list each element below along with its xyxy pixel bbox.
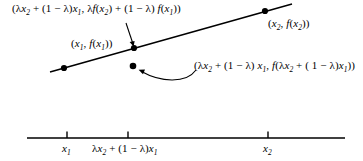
tick-label-x2: x2 (263, 143, 272, 154)
point-dot-function (130, 63, 137, 70)
point-dot-left (61, 65, 67, 71)
tick-label-mid: λx2 + (1 − λ)x1 (92, 143, 158, 154)
label-right-point: (x2, f(x2)) (268, 18, 310, 29)
convexity-diagram: (λx2 + (1 − λ)x1, λf(x2) + (1 − λ) f(x1)… (0, 0, 363, 161)
label-left-point: (x1, f(x1)) (71, 38, 113, 49)
point-dot-chord (131, 45, 137, 51)
arrow-to-chord-point-shaft (126, 23, 133, 45)
label-chord-point: (λx2 + (1 − λ)x1, λf(x2) + (1 − λ) f(x1)… (12, 3, 181, 14)
arrow-to-function-point-shaft (142, 70, 197, 80)
tick-label-x1: x1 (62, 143, 71, 154)
point-dot-right (262, 8, 268, 14)
label-function-point: (λx2 + (1 − λ) x1, f(λx2 + ( 1 − λ)x1)) (194, 60, 355, 71)
